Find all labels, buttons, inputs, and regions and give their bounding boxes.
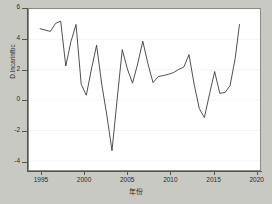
y-tick-mark: [22, 39, 27, 40]
x-tick-label: 2005: [112, 177, 142, 184]
x-tick-mark: [127, 171, 128, 175]
x-tick-mark: [257, 171, 258, 175]
x-tick-mark: [41, 171, 42, 175]
y-tick-label: -4: [0, 158, 20, 165]
y-tick-mark: [22, 131, 27, 132]
y-tick-mark: [22, 162, 27, 163]
series-line-layer: [29, 9, 260, 170]
y-tick-label: 6: [0, 4, 20, 11]
x-axis-line: [27, 171, 262, 172]
x-tick-mark: [84, 171, 85, 175]
x-tick-label: 2010: [155, 177, 185, 184]
x-tick-label: 1995: [26, 177, 56, 184]
y-tick-label: -2: [0, 127, 20, 134]
stata-line-chart-figure: -4-20246 199520002005201020152020 D.lnca…: [0, 0, 272, 204]
x-tick-label: 2000: [69, 177, 99, 184]
plot-area: [28, 8, 261, 171]
x-tick-label: 2020: [242, 177, 272, 184]
y-tick-mark: [22, 8, 27, 9]
y-axis-title: D.lncarinfbc: [9, 32, 16, 92]
x-tick-label: 2015: [199, 177, 229, 184]
x-tick-mark: [214, 171, 215, 175]
y-tick-mark: [22, 100, 27, 101]
x-tick-mark: [170, 171, 171, 175]
y-tick-mark: [22, 70, 27, 71]
x-axis-title: 年份: [0, 186, 272, 196]
y-tick-label: 0: [0, 96, 20, 103]
y-axis-line: [27, 8, 28, 172]
series-line-d-lncarinfbc: [40, 21, 239, 151]
